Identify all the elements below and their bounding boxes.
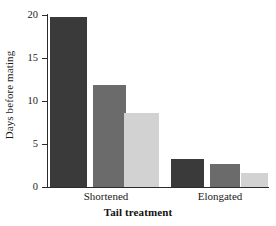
y-tick-label-0: 0 (14, 182, 38, 192)
bar-chart: Days before mating 20 15 10 5 0 Shortene… (0, 0, 276, 226)
y-tick-label-5: 5 (14, 139, 38, 149)
bar-shortened-series-1 (50, 17, 87, 187)
x-axis-title: Tail treatment (0, 206, 276, 219)
y-tick-label-15: 15 (14, 53, 38, 63)
bar-elongated-series-3 (241, 173, 268, 187)
bar-shortened-series-2 (93, 85, 126, 187)
y-axis-title: Days before mating (2, 0, 16, 190)
y-tick-label-20: 20 (14, 10, 38, 20)
x-group-label-elongated: Elongated (150, 190, 276, 203)
y-tick-mark-0 (42, 187, 47, 188)
y-tick-0: 0 (0, 187, 276, 188)
y-tick-label-10: 10 (14, 96, 38, 106)
plot-area (47, 15, 269, 187)
bar-shortened-series-3 (124, 113, 159, 187)
bar-elongated-series-2 (210, 164, 240, 187)
bar-elongated-series-1 (171, 159, 204, 187)
